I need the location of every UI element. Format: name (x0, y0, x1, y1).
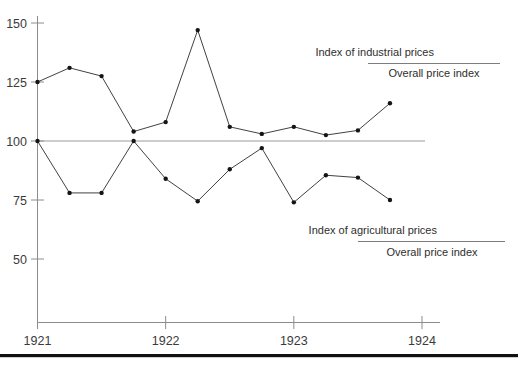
bottom-divider-rule (0, 354, 518, 357)
legend-industrial: Index of industrial prices Overall price… (315, 46, 500, 79)
data-point (35, 139, 39, 143)
data-point (196, 28, 200, 32)
data-point (356, 128, 360, 132)
data-point (292, 200, 296, 204)
x-axis-ticks: 1921192219231924 (24, 316, 436, 348)
x-tick-label: 1921 (24, 334, 52, 348)
y-tick-label: 125 (6, 76, 27, 90)
data-point (163, 177, 167, 181)
x-tick-label: 1923 (280, 334, 308, 348)
series-industrial (35, 28, 392, 137)
data-point (131, 129, 135, 133)
data-point (99, 191, 103, 195)
data-point (260, 146, 264, 150)
y-tick-label: 100 (6, 135, 27, 149)
data-point (292, 125, 296, 129)
data-point (35, 80, 39, 84)
legend-agricultural: Index of agricultural prices Overall pri… (309, 224, 505, 258)
data-point (228, 125, 232, 129)
chart-canvas: 1501251007550 1921192219231924 Index of … (0, 0, 518, 365)
legend-agricultural-denominator: Overall price index (386, 246, 478, 258)
data-point (163, 120, 167, 124)
legend-agricultural-numerator: Index of agricultural prices (309, 224, 438, 236)
y-tick-label: 50 (13, 253, 27, 267)
data-point (356, 175, 360, 179)
data-point (324, 133, 328, 137)
legend-industrial-denominator: Overall price index (388, 67, 480, 79)
data-point (196, 199, 200, 203)
data-point (228, 167, 232, 171)
series-agricultural (35, 139, 392, 205)
y-tick-label: 150 (6, 17, 27, 31)
data-point (67, 191, 71, 195)
data-point (260, 132, 264, 136)
data-point (388, 101, 392, 105)
data-point (67, 66, 71, 70)
y-tick-label: 75 (13, 194, 27, 208)
data-point (99, 74, 103, 78)
price-index-chart: 1501251007550 1921192219231924 Index of … (0, 0, 518, 365)
x-tick-label: 1922 (152, 334, 180, 348)
x-tick-label: 1924 (408, 334, 436, 348)
data-point (324, 173, 328, 177)
data-point (388, 198, 392, 202)
data-point (131, 139, 135, 143)
legend-industrial-numerator: Index of industrial prices (315, 46, 434, 58)
